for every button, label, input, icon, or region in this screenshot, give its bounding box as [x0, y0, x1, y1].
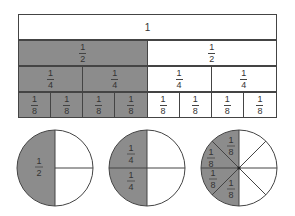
circle-eighths: 1 8 1 8 1 8 1 8 — [201, 130, 277, 206]
label-den: 8 — [210, 180, 215, 190]
circle-half: 1 2 — [17, 130, 93, 206]
label-den: 4 — [128, 155, 133, 165]
fraction-circles: 1 2 1 4 1 4 1 8 1 8 1 8 1 — [0, 0, 295, 216]
label-num: 1 — [128, 170, 133, 180]
label-num: 1 — [228, 135, 233, 145]
label-num: 1 — [128, 143, 133, 153]
circle-quarters: 1 4 1 4 — [109, 130, 185, 206]
label-den: 4 — [128, 182, 133, 192]
label-num: 1 — [210, 168, 215, 178]
label-den: 8 — [228, 147, 233, 157]
label-num: 1 — [228, 178, 233, 188]
label-num: 1 — [208, 147, 213, 157]
label-den: 8 — [228, 190, 233, 200]
label-num: 1 — [36, 156, 41, 166]
label-den: 2 — [36, 168, 41, 178]
